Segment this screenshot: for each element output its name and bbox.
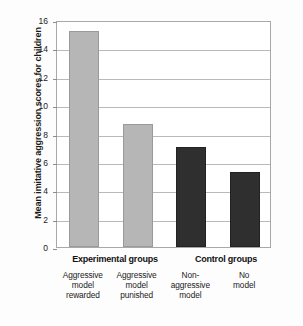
- bar-aggressive-model-punished: [123, 124, 153, 247]
- category-label-line: model: [160, 290, 220, 300]
- y-tick-label-10: 10: [0, 101, 48, 111]
- bar-chart-figure: Mean imitative aggression scores for chi…: [0, 0, 303, 326]
- group-header-control: Control groups: [176, 254, 276, 264]
- y-tick-mark: [53, 164, 57, 165]
- y-tick-mark: [53, 136, 57, 137]
- group-header-experimental: Experimental groups: [56, 254, 174, 264]
- category-label-line: model: [214, 280, 274, 290]
- category-label-line: Non-: [160, 270, 220, 280]
- y-tick-mark: [53, 79, 57, 80]
- y-tick-label-14: 14: [0, 44, 48, 54]
- y-tick-mark: [53, 221, 57, 222]
- bar-aggressive-model-rewarded: [69, 31, 99, 247]
- category-label-line: punished: [107, 290, 167, 300]
- bar-non-aggressive-model: [176, 147, 206, 247]
- category-label-no-model: Nomodel: [214, 270, 274, 290]
- category-label-line: aggressive: [160, 280, 220, 290]
- y-tick-mark: [53, 107, 57, 108]
- y-tick-label-0: 0: [0, 243, 48, 253]
- y-tick-mark: [53, 249, 57, 250]
- y-tick-label-6: 6: [0, 158, 48, 168]
- y-tick-label-16: 16: [0, 16, 48, 26]
- category-label-line: Aggressive: [107, 270, 167, 280]
- category-label-aggressive-model-rewarded: Aggressivemodelrewarded: [53, 270, 113, 300]
- y-tick-mark: [53, 22, 57, 23]
- category-label-line: model: [53, 280, 113, 290]
- y-tick-mark: [53, 50, 57, 51]
- bar-no-model: [230, 172, 260, 247]
- y-tick-label-4: 4: [0, 186, 48, 196]
- y-tick-label-12: 12: [0, 73, 48, 83]
- category-label-line: No: [214, 270, 274, 280]
- category-label-line: Aggressive: [53, 270, 113, 280]
- category-label-aggressive-model-punished: Aggressivemodelpunished: [107, 270, 167, 300]
- y-tick-label-8: 8: [0, 130, 48, 140]
- y-tick-mark: [53, 192, 57, 193]
- category-label-non-aggressive-model: Non-aggressivemodel: [160, 270, 220, 300]
- category-label-line: model: [107, 280, 167, 290]
- plot-area: [56, 21, 271, 248]
- y-tick-label-2: 2: [0, 215, 48, 225]
- category-label-line: rewarded: [53, 290, 113, 300]
